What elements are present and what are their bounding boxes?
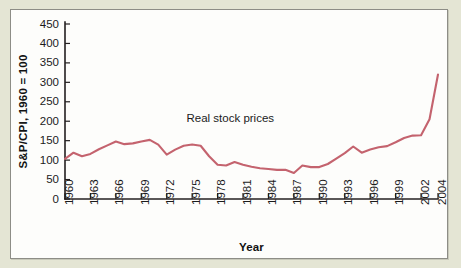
- x-axis-tick-label: 2002: [419, 179, 431, 205]
- figure-root: 050100150200250300350400450 196019631966…: [0, 0, 461, 268]
- chart-panel: 050100150200250300350400450 196019631966…: [10, 9, 448, 259]
- y-axis-tick-label: 50: [46, 173, 59, 185]
- y-axis-tick-label: 200: [40, 115, 59, 127]
- x-axis-tick-label: 1984: [266, 179, 278, 205]
- x-axis-tick-label: 1987: [291, 179, 303, 205]
- x-axis-tick-label: 2004: [436, 179, 447, 205]
- y-axis-tick-label: 100: [40, 154, 59, 166]
- x-axis-tick-label: 1966: [113, 179, 125, 205]
- x-axis-tick-label: 1972: [164, 179, 176, 205]
- y-axis-tick-label: 150: [40, 134, 59, 146]
- x-axis-tick-label: 1978: [215, 179, 227, 205]
- x-axis-tick-label: 1975: [190, 179, 202, 205]
- y-axis-tick-label: 450: [40, 18, 59, 30]
- x-axis-tick-label: 1993: [342, 179, 354, 205]
- x-axis-tick-label: 1969: [139, 179, 151, 205]
- y-axis-title: S&P/CPI, 1960 = 100: [17, 54, 29, 168]
- y-axis-tick-label: 400: [40, 37, 59, 49]
- x-axis-tick-label: 1999: [393, 179, 405, 205]
- x-axis: 1960196319661969197219751978198119841987…: [63, 179, 447, 205]
- y-axis: 050100150200250300350400450: [40, 18, 70, 205]
- x-axis-tick-label: 1990: [317, 179, 329, 205]
- x-axis-tick-label: 1996: [368, 179, 380, 205]
- x-axis-tick-label: 1963: [88, 179, 100, 205]
- real-stock-prices-line-chart: 050100150200250300350400450 196019631966…: [11, 10, 447, 258]
- x-axis-tick-label: 1981: [241, 179, 253, 205]
- y-axis-tick-label: 0: [53, 193, 59, 205]
- y-axis-tick-label: 250: [40, 95, 59, 107]
- annotation-layer: Real stock prices: [187, 112, 275, 124]
- y-axis-tick-label: 350: [40, 56, 59, 68]
- series-annotation-label: Real stock prices: [187, 112, 275, 124]
- y-axis-tick-label: 300: [40, 76, 59, 88]
- x-axis-tick-label: 1960: [63, 179, 75, 205]
- x-axis-title: Year: [239, 241, 264, 253]
